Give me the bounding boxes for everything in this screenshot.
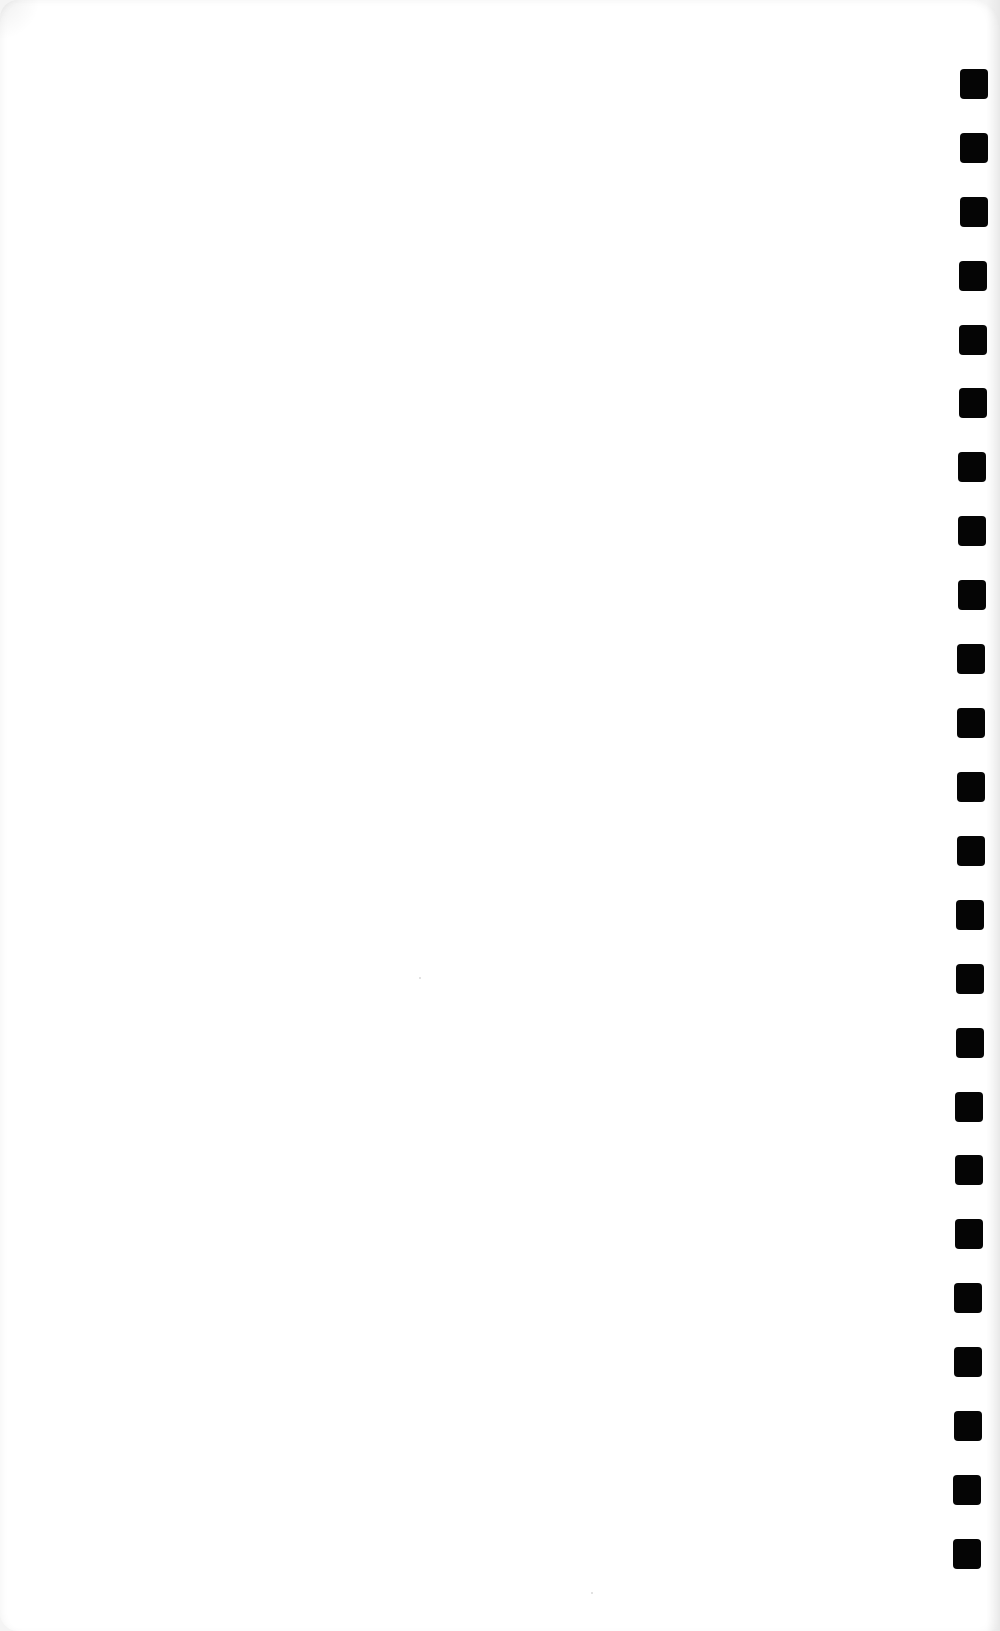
- punch-hole-column: [0, 0, 1000, 1631]
- punch-hole: [954, 1411, 982, 1441]
- punch-hole: [954, 1283, 982, 1313]
- punch-hole: [954, 1347, 982, 1377]
- punch-hole: [957, 644, 985, 674]
- punch-hole: [953, 1475, 981, 1505]
- punch-hole: [959, 261, 987, 291]
- punch-hole: [955, 1092, 983, 1122]
- punch-hole: [955, 1155, 983, 1185]
- blank-sheet: [0, 0, 1000, 1631]
- punch-hole: [959, 388, 987, 418]
- punch-hole: [956, 1028, 984, 1058]
- punch-hole: [958, 580, 986, 610]
- punch-hole: [958, 452, 986, 482]
- punch-hole: [956, 900, 984, 930]
- punch-hole: [959, 325, 987, 355]
- punch-hole: [960, 69, 988, 99]
- punch-hole: [957, 772, 985, 802]
- punch-hole: [957, 836, 985, 866]
- punch-hole: [958, 516, 986, 546]
- punch-hole: [957, 708, 985, 738]
- punch-hole: [960, 133, 988, 163]
- scan-speck: [591, 1592, 593, 1594]
- punch-hole: [956, 964, 984, 994]
- punch-hole: [955, 1219, 983, 1249]
- punch-hole: [953, 1539, 981, 1569]
- scan-speck: [419, 977, 421, 979]
- punch-hole: [960, 197, 988, 227]
